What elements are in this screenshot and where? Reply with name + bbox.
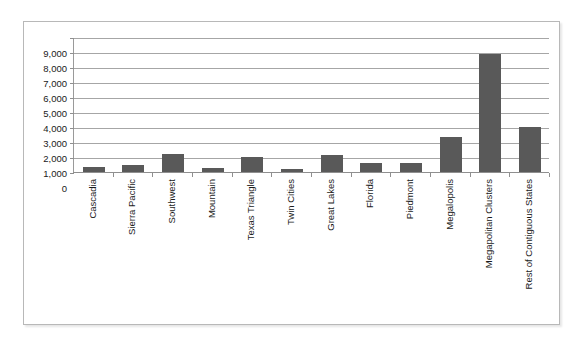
x-axis-category-label: Rest of Contiguous States bbox=[524, 179, 534, 289]
bar-slot bbox=[312, 38, 352, 172]
bar-slot bbox=[431, 38, 471, 172]
bar[interactable] bbox=[162, 154, 184, 172]
x-axis-label-slot: Texas Triangle bbox=[232, 177, 272, 317]
bar[interactable] bbox=[360, 163, 382, 172]
x-axis-label-slot: Mountain bbox=[192, 177, 232, 317]
y-axis-tick-label: 5,000 bbox=[43, 108, 67, 119]
bar[interactable] bbox=[321, 155, 343, 172]
y-axis-tick-label: 2,000 bbox=[43, 153, 67, 164]
x-axis-category-label: Sierra Pacific bbox=[127, 179, 137, 235]
y-axis-tick-label: 4,000 bbox=[43, 123, 67, 134]
bar-slot bbox=[74, 38, 114, 172]
bar-slot bbox=[471, 38, 511, 172]
y-axis-tick-label: 9,000 bbox=[43, 48, 67, 59]
y-axis-tick-label: 1,000 bbox=[43, 168, 67, 179]
x-axis-label-slot: Sierra Pacific bbox=[113, 177, 153, 317]
x-axis-label-slot: Megapolitan Clusters bbox=[470, 177, 510, 317]
x-axis-label-slot: Megalopolis bbox=[430, 177, 470, 317]
bar-slot bbox=[114, 38, 154, 172]
bar-slot bbox=[233, 38, 273, 172]
plot-area bbox=[73, 38, 549, 173]
bar[interactable] bbox=[281, 169, 303, 172]
x-axis-category-label: Megalopolis bbox=[445, 179, 455, 230]
x-axis-category-label: Piedmont bbox=[405, 179, 415, 219]
y-axis-tick-label: 0 bbox=[62, 183, 67, 194]
bar[interactable] bbox=[440, 137, 462, 172]
bar-slot bbox=[391, 38, 431, 172]
bar[interactable] bbox=[202, 168, 224, 172]
y-axis-tick-label: 3,000 bbox=[43, 138, 67, 149]
bar-slot bbox=[352, 38, 392, 172]
x-axis-label-slot: Southwest bbox=[152, 177, 192, 317]
bar-slot bbox=[510, 38, 550, 172]
y-axis-tick-label: 7,000 bbox=[43, 78, 67, 89]
x-axis-category-label: Twin Cities bbox=[286, 179, 296, 225]
y-axis-tick-label: 8,000 bbox=[43, 63, 67, 74]
x-axis-tickmark bbox=[549, 173, 550, 177]
bar-slot bbox=[193, 38, 233, 172]
x-axis-category-label: Southwest bbox=[167, 179, 177, 223]
x-axis-category-label: Cascadia bbox=[88, 179, 98, 219]
bar[interactable] bbox=[241, 157, 263, 172]
x-axis-category-label: Mountain bbox=[207, 179, 217, 218]
x-axis-category-label: Florida bbox=[365, 179, 375, 208]
x-axis-category-label: Megapolitan Clusters bbox=[484, 179, 494, 268]
bar-series bbox=[74, 38, 549, 172]
bar[interactable] bbox=[122, 165, 144, 173]
x-axis-category-label: Texas Triangle bbox=[246, 179, 256, 240]
x-axis-label-slot: Cascadia bbox=[73, 177, 113, 317]
x-axis-label-slot: Florida bbox=[351, 177, 391, 317]
x-axis-category-labels: CascadiaSierra PacificSouthwestMountainT… bbox=[73, 177, 549, 317]
bar[interactable] bbox=[400, 163, 422, 172]
x-axis-label-slot: Great Lakes bbox=[311, 177, 351, 317]
bar[interactable] bbox=[479, 54, 501, 172]
bar-slot bbox=[272, 38, 312, 172]
y-axis-tick-labels: 9,0008,0007,0006,0005,0004,0003,0002,000… bbox=[24, 53, 71, 195]
bar-slot bbox=[153, 38, 193, 172]
y-axis-tick-label: 6,000 bbox=[43, 93, 67, 104]
bar[interactable] bbox=[83, 167, 105, 172]
chart-frame: 9,0008,0007,0006,0005,0004,0003,0002,000… bbox=[23, 21, 560, 325]
bar[interactable] bbox=[519, 127, 541, 172]
y-axis-tickmark bbox=[70, 173, 74, 174]
x-axis-label-slot: Piedmont bbox=[390, 177, 430, 317]
x-axis-label-slot: Twin Cities bbox=[271, 177, 311, 317]
x-axis-label-slot: Rest of Contiguous States bbox=[509, 177, 549, 317]
x-axis-category-label: Great Lakes bbox=[326, 179, 336, 231]
